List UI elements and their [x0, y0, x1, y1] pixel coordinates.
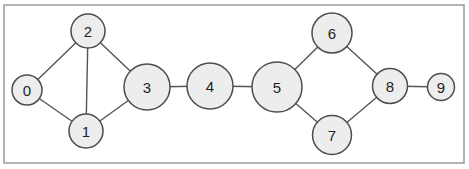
node-label-3: 3	[143, 79, 151, 96]
node-6: 6	[312, 13, 352, 53]
graph-svg: 0123456789	[0, 0, 469, 169]
node-label-4: 4	[206, 78, 214, 95]
node-3: 3	[124, 64, 170, 110]
node-7: 7	[313, 116, 352, 155]
node-2: 2	[71, 14, 105, 48]
node-layer: 0123456789	[12, 13, 455, 155]
node-5: 5	[252, 62, 302, 112]
node-8: 8	[373, 69, 408, 104]
node-label-2: 2	[84, 23, 92, 40]
figure-canvas: 0123456789	[0, 0, 469, 169]
node-9: 9	[428, 74, 455, 101]
node-label-9: 9	[437, 79, 445, 96]
node-label-7: 7	[328, 127, 336, 144]
node-label-5: 5	[273, 79, 281, 96]
node-label-6: 6	[328, 25, 336, 42]
node-0: 0	[12, 75, 42, 105]
node-4: 4	[187, 63, 233, 109]
node-label-1: 1	[82, 123, 90, 140]
node-label-8: 8	[386, 78, 394, 95]
node-label-0: 0	[23, 82, 31, 99]
node-1: 1	[69, 114, 103, 148]
